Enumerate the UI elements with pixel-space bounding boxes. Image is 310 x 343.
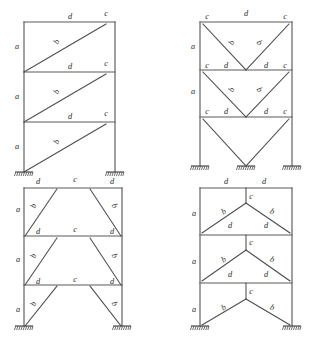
panel-top-right bbox=[190, 22, 301, 170]
member-label-b: b bbox=[227, 86, 237, 94]
member-label-d: d bbox=[244, 9, 249, 18]
member-label-c: c bbox=[249, 238, 253, 247]
member-label-c: c bbox=[73, 175, 77, 184]
chevron-right-story-1 bbox=[246, 299, 290, 325]
diagonal-left-story-2 bbox=[25, 238, 57, 285]
member-label-c: c bbox=[283, 107, 287, 116]
panel-bottom-right bbox=[190, 188, 301, 330]
v-brace-left-story-1 bbox=[203, 119, 246, 166]
frames-diagram-svg: dcabdcabdcab cdcabbcddcabbcddc dcdabbdcd… bbox=[0, 0, 310, 343]
member-label-d: d bbox=[224, 177, 229, 186]
member-label-c: c bbox=[249, 192, 253, 201]
fixed-support-right bbox=[105, 172, 124, 176]
member-label-c: c bbox=[73, 275, 77, 284]
member-label-c: c bbox=[283, 61, 287, 70]
member-label-a: a bbox=[192, 305, 196, 314]
structural-frames-figure: dcabdcabdcab cdcabbcddcabbcddc dcdabbdcd… bbox=[0, 0, 310, 343]
member-label-c: c bbox=[249, 287, 253, 296]
fixed-support-left bbox=[190, 326, 209, 330]
member-label-c: c bbox=[104, 9, 108, 18]
member-label-b: b bbox=[255, 86, 265, 94]
member-label-b: b bbox=[268, 303, 276, 313]
member-label-d: d bbox=[264, 107, 269, 116]
panel-bottom-left bbox=[14, 188, 131, 330]
member-label-b: b bbox=[28, 252, 38, 259]
member-label-d: d bbox=[228, 221, 233, 230]
member-label-a: a bbox=[191, 87, 195, 96]
member-label-b: b bbox=[28, 300, 38, 307]
diagonal-right-story-3 bbox=[90, 189, 121, 236]
member-label-d: d bbox=[110, 177, 115, 186]
member-label-d: d bbox=[36, 177, 41, 186]
v-brace-right-story-1 bbox=[246, 119, 289, 166]
member-label-c: c bbox=[73, 225, 77, 234]
chevron-left-story-2 bbox=[202, 250, 246, 281]
member-label-b: b bbox=[110, 202, 120, 209]
member-label-d: d bbox=[110, 227, 115, 236]
member-label-a: a bbox=[191, 42, 195, 51]
member-label-b: b bbox=[52, 38, 62, 46]
fixed-support-middle bbox=[236, 166, 255, 170]
diagonal-brace-story-2 bbox=[24, 74, 106, 122]
member-label-a: a bbox=[15, 142, 19, 151]
member-label-b: b bbox=[220, 303, 228, 313]
member-label-b: b bbox=[268, 207, 276, 217]
member-label-c: c bbox=[205, 107, 209, 116]
labels-panel-bottom-left: dcdabbdcdabbdcdabb bbox=[16, 175, 120, 314]
labels-panel-bottom-right: ddcabbddcabbddcabb bbox=[192, 177, 276, 314]
member-label-a: a bbox=[192, 209, 196, 218]
member-label-d: d bbox=[262, 177, 267, 186]
member-label-d: d bbox=[264, 270, 269, 279]
member-label-c: c bbox=[205, 12, 209, 21]
fixed-support-right bbox=[282, 326, 301, 330]
member-label-c: c bbox=[104, 109, 108, 118]
diagonal-left-story-1 bbox=[25, 286, 57, 326]
fixed-support-right bbox=[282, 166, 301, 170]
diagonal-right-story-1 bbox=[90, 286, 121, 326]
member-label-b: b bbox=[268, 255, 276, 265]
member-label-b: b bbox=[220, 207, 228, 217]
member-label-b: b bbox=[52, 138, 62, 146]
diagonal-left-story-3 bbox=[25, 189, 57, 236]
chevron-left-story-3 bbox=[202, 203, 246, 233]
member-label-d: d bbox=[68, 12, 73, 21]
member-label-b: b bbox=[255, 39, 265, 47]
fixed-support-left bbox=[14, 326, 33, 330]
member-label-a: a bbox=[15, 42, 19, 51]
member-label-d: d bbox=[68, 112, 73, 121]
member-label-d: d bbox=[264, 61, 269, 70]
member-label-c: c bbox=[283, 12, 287, 21]
member-label-d: d bbox=[68, 62, 73, 71]
member-label-b: b bbox=[110, 252, 120, 259]
member-label-a: a bbox=[16, 255, 20, 264]
member-label-d: d bbox=[36, 227, 41, 236]
diagonal-brace-story-3 bbox=[24, 24, 106, 72]
member-label-d: d bbox=[228, 270, 233, 279]
member-label-a: a bbox=[16, 205, 20, 214]
member-label-c: c bbox=[104, 59, 108, 68]
member-label-a: a bbox=[192, 257, 196, 266]
labels-panel-top-left: dcabdcabdcab bbox=[15, 9, 108, 151]
fixed-support-left bbox=[190, 166, 209, 170]
diagonal-brace-story-1 bbox=[24, 124, 106, 172]
member-label-b: b bbox=[227, 39, 237, 47]
fixed-support-left bbox=[14, 172, 33, 176]
member-label-d: d bbox=[224, 61, 229, 70]
member-label-b: b bbox=[28, 202, 38, 209]
diagonal-right-story-2 bbox=[90, 238, 121, 285]
fixed-support-right bbox=[112, 326, 131, 330]
member-label-c: c bbox=[205, 61, 209, 70]
member-label-a: a bbox=[15, 92, 19, 101]
member-label-b: b bbox=[52, 88, 62, 96]
member-label-d: d bbox=[224, 107, 229, 116]
member-label-b: b bbox=[220, 255, 228, 265]
member-label-a: a bbox=[16, 305, 20, 314]
panel-top-left bbox=[14, 22, 124, 176]
member-label-b: b bbox=[110, 300, 120, 307]
member-label-d: d bbox=[264, 221, 269, 230]
